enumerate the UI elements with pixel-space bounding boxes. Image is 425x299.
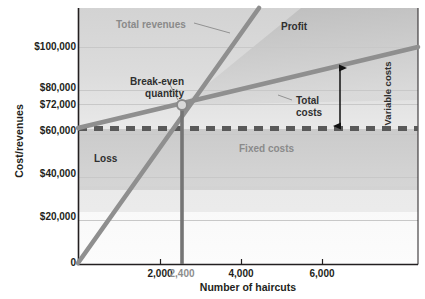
annotation-break-even-quantity: Break-even quantity <box>96 76 184 100</box>
plot-area <box>0 0 425 299</box>
plot-background <box>78 8 418 264</box>
annotation-total-revenues: Total revenues <box>116 19 186 30</box>
annotation-fixed-costs: Fixed costs <box>239 143 294 154</box>
annotation-break-even-line1: Break-even <box>96 76 184 88</box>
annotation-total-costs-line2: costs <box>296 107 322 119</box>
annotation-total-costs-line1: Total <box>296 95 322 107</box>
annotation-profit: Profit <box>281 21 307 32</box>
annotation-loss: Loss <box>94 153 117 164</box>
x-tick-4000: 4,000 <box>211 268 271 279</box>
annotation-variable-costs-line1: Variable <box>382 89 393 125</box>
annotation-break-even-line2: quantity <box>96 88 184 100</box>
annotation-total-costs: Total costs <box>296 95 322 119</box>
annotation-variable-costs-line2: costs <box>382 62 393 87</box>
breakeven-chart-figure: Cost/revenues $100,000 $80,000 $72,000 $… <box>0 0 425 299</box>
break-even-marker <box>177 100 187 110</box>
annotation-variable-costs: Variable costs <box>382 59 393 129</box>
x-axis-title: Number of haircuts <box>78 281 418 293</box>
x-tick-2400: 2,400 <box>152 268 212 279</box>
x-tick-6000: 6,000 <box>292 268 352 279</box>
